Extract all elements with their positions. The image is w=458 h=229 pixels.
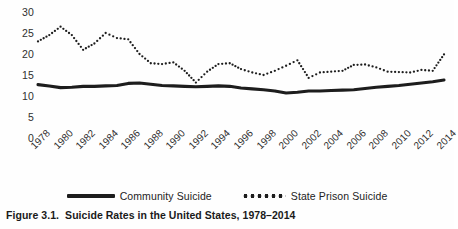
figure-caption: Figure 3.1.Suicide Rates in the United S…: [6, 209, 446, 221]
dotted-line-swatch-icon: [242, 194, 286, 198]
y-axis-tick-label: 10: [0, 91, 34, 102]
y-axis-tick-label: 30: [0, 7, 34, 18]
y-axis-tick-label: 15: [0, 70, 34, 81]
y-axis-tick-label: 25: [0, 28, 34, 39]
legend-item-state-prison-suicide: State Prison Suicide: [242, 191, 388, 202]
chart-legend: Community Suicide State Prison Suicide: [0, 186, 454, 206]
legend-label-state-prison-suicide: State Prison Suicide: [291, 191, 388, 202]
figure-caption-number: Figure 3.1.: [6, 209, 59, 221]
solid-line-swatch-icon: [67, 194, 115, 198]
y-axis-tick-label: 20: [0, 49, 34, 60]
series-community-suicide-line: [38, 80, 444, 93]
legend-item-community-suicide: Community Suicide: [67, 191, 212, 202]
y-axis-tick-label: 5: [0, 112, 34, 123]
y-axis: 302520151050: [0, 0, 34, 138]
series-state-prison-suicide-dots: [37, 26, 445, 84]
figure-caption-text: Suicide Rates in the United States, 1978…: [65, 209, 295, 221]
plot-area: [38, 12, 444, 138]
chart-canvas: [38, 12, 444, 138]
x-axis: 1978198019821984198619881990199219941996…: [0, 140, 454, 188]
legend-label-community-suicide: Community Suicide: [120, 191, 212, 202]
